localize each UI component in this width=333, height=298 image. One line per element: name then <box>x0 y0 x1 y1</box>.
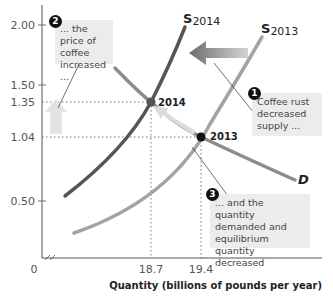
supply-shift-arrow-icon <box>189 41 248 65</box>
y-tick-label-2-00: 2.00 <box>11 19 36 32</box>
callout-1-badge: 1 <box>248 87 261 100</box>
callout-quantity-decreased: ... and the quantity demanded and equili… <box>210 194 310 248</box>
x-axis-title: Quantity (billions of pounds per year) <box>109 280 322 291</box>
supply-demand-chart: 2.00 1.50 1.35 1.04 0.50 0 18.7 19.4 Qua… <box>0 0 333 298</box>
guide-lines <box>42 102 201 258</box>
callout-price-increased: ... the price of coffee increased ... <box>55 20 113 64</box>
y-tick-label-1-04: 1.04 <box>11 131 36 144</box>
point-label-2013: 2013 <box>210 131 238 142</box>
equilibrium-point-2014 <box>147 98 156 107</box>
movement-along-demand-arrow-icon <box>153 106 196 135</box>
callout-coffee-rust: Coffee rust decreased supply ... <box>252 93 322 136</box>
s2013-label: S2013 <box>261 21 298 38</box>
price-increase-arrow-icon <box>45 99 67 134</box>
y-tick-label-1-35: 1.35 <box>11 96 36 109</box>
x-tick-label-19-4: 19.4 <box>189 263 214 276</box>
x-origin-label: 0 <box>31 263 38 276</box>
callout-2-badge: 2 <box>49 15 62 28</box>
equilibrium-point-2013 <box>197 133 206 142</box>
x-tick-label-18-7: 18.7 <box>139 263 164 276</box>
demand-label: D <box>298 172 309 187</box>
y-tick-label-1-50: 1.50 <box>11 79 36 92</box>
s2014-label: S2014 <box>183 11 220 28</box>
callout-3-badge: 3 <box>206 188 219 201</box>
y-tick-label-0-50: 0.50 <box>11 195 36 208</box>
point-label-2014: 2014 <box>158 97 186 108</box>
callout-1-text: Coffee rust decreased supply ... <box>257 96 309 131</box>
